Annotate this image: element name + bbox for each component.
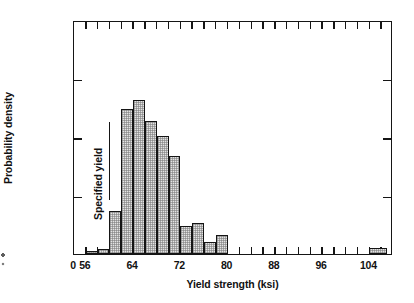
x-axis-tick-labels: 0566472808896104: [0, 0, 414, 303]
x-axis-title: Yield strength (ksi): [73, 278, 392, 290]
scan-artifact: [1, 252, 6, 268]
x-axis-tick-label: 56: [79, 259, 90, 271]
figure-histogram: Probability density 00.0250.0500.0750.10…: [0, 0, 414, 303]
x-axis-tick-label: 64: [126, 259, 137, 271]
x-axis-tick-label: 80: [221, 259, 232, 271]
x-axis-tick-label: 0: [70, 259, 76, 271]
x-axis-tick-label: 96: [315, 259, 326, 271]
x-axis-tick-label: 88: [268, 259, 279, 271]
x-axis-tick-label: 104: [360, 259, 377, 271]
x-axis-tick-label: 72: [174, 259, 185, 271]
